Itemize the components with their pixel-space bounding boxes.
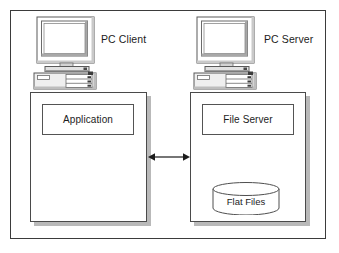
file-server-label: File Server — [223, 114, 272, 125]
diagram-canvas: Application — [0, 0, 339, 253]
client-box-shadow-bottom — [34, 222, 151, 226]
application-label: Application — [63, 114, 113, 125]
server-box-shadow-right — [306, 96, 310, 226]
pc-client-caption: PC Client — [101, 33, 146, 45]
database-cylinder-icon[interactable]: Flat Files — [212, 182, 280, 215]
file-server-component[interactable]: File Server — [202, 104, 294, 135]
application-component[interactable]: Application — [42, 104, 134, 135]
pc-server-caption: PC Server — [264, 33, 313, 45]
double-headed-arrow-icon — [148, 150, 190, 164]
flat-files-label-wrap: Flat Files — [212, 182, 280, 215]
server-desktop-computer-icon — [193, 16, 260, 90]
server-box-shadow-bottom — [194, 222, 310, 226]
client-desktop-computer-icon — [33, 16, 100, 90]
flat-files-label: Flat Files — [227, 196, 266, 207]
